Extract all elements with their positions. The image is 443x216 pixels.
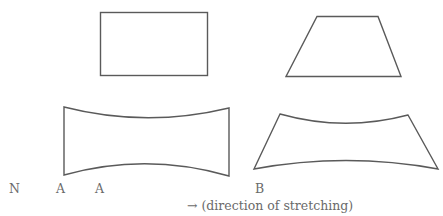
label-n: N <box>9 183 20 196</box>
original-rectangle <box>101 13 208 76</box>
label-a-first: A <box>56 183 65 196</box>
original-trapezoid <box>286 17 401 77</box>
label-a-second: A <box>95 183 104 196</box>
stretched-rectangle <box>64 107 229 176</box>
direction-of-stretching-caption: → (direction of stretching) <box>187 200 353 213</box>
label-b: B <box>255 183 264 196</box>
diagram-canvas <box>0 0 443 216</box>
stretched-trapezoid <box>254 114 438 169</box>
